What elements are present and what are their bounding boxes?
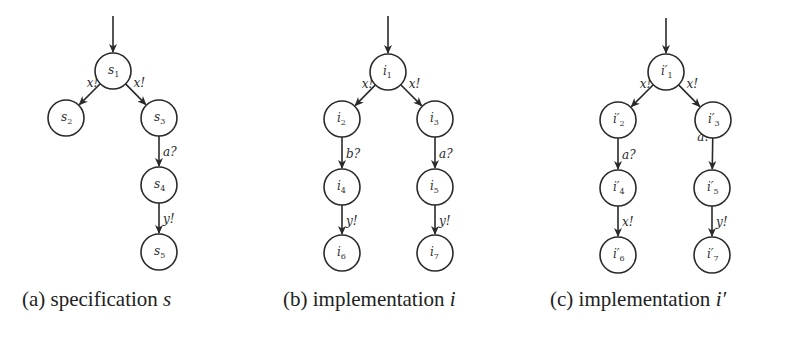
state-node-s2: s2: [48, 100, 84, 136]
transition-label: x!: [134, 76, 146, 90]
state-node-ip5: i′5: [694, 170, 730, 206]
panel-implementation-i: x!x!b?a?y!y!i1i2i3i4i5i6i7(b) implementa…: [283, 16, 456, 311]
transition-label: y!: [162, 212, 175, 226]
transition-label: a?: [622, 148, 636, 162]
panel-caption: (b) implementation i: [283, 287, 456, 311]
state-node-i2: i2: [324, 101, 360, 137]
state-node-s4: s4: [141, 167, 177, 203]
state-node-s5: s5: [141, 234, 177, 270]
state-node-i4: i4: [324, 169, 360, 205]
panel-caption: (a) specification s: [22, 287, 171, 311]
state-node-i6: i6: [324, 235, 360, 271]
transition-label: a?: [163, 145, 177, 159]
transition-label: x!: [409, 77, 421, 91]
panel-caption: (c) implementation i′: [550, 287, 726, 311]
panel-implementation-i-prime: x!x!a?a?x!y!i′1i′2i′3i′4i′5i′6i′7(c) imp…: [550, 18, 731, 311]
state-node-i5: i5: [417, 169, 453, 205]
transition-label: x!: [687, 77, 699, 91]
state-node-ip3: i′3: [695, 102, 731, 138]
state-node-i7: i7: [417, 235, 453, 271]
transition-label: x!: [622, 215, 634, 229]
panel-specification-s: x!x!a?y!s1s2s3s4s5(a) specification s: [22, 16, 177, 311]
figure-canvas: x!x!a?y!s1s2s3s4s5(a) specification s x!…: [0, 0, 805, 339]
state-node-s3: s3: [141, 100, 177, 136]
state-node-i1: i1: [370, 54, 406, 90]
state-node-ip2: i′2: [600, 102, 636, 138]
transition-label: y!: [715, 215, 728, 229]
transition-label: a?: [439, 147, 453, 161]
transition-label: y!: [438, 214, 451, 228]
state-node-ip6: i′6: [600, 237, 636, 273]
transition-label: y!: [345, 214, 358, 228]
state-node-s1: s1: [95, 53, 131, 89]
transition-label: b?: [346, 147, 361, 161]
state-node-ip1: i′1: [648, 54, 684, 90]
state-node-ip7: i′7: [694, 237, 730, 273]
state-node-i3: i3: [417, 101, 453, 137]
state-node-ip4: i′4: [600, 170, 636, 206]
